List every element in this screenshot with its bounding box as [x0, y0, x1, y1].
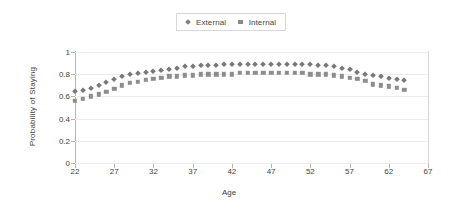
- legend-label-external: External: [196, 18, 226, 27]
- data-point-external: [261, 62, 266, 67]
- data-point-external: [96, 83, 101, 88]
- data-point-external: [308, 62, 313, 67]
- data-point-internal: [175, 74, 179, 78]
- data-point-internal: [332, 73, 336, 77]
- data-point-external: [104, 79, 109, 84]
- data-point-external: [363, 72, 368, 77]
- square-marker-icon: [238, 20, 243, 25]
- data-point-external: [292, 62, 297, 67]
- gridline: [75, 52, 428, 53]
- data-point-external: [402, 77, 407, 82]
- data-point-internal: [120, 83, 124, 87]
- data-point-external: [72, 88, 77, 93]
- x-tick-mark: [193, 164, 194, 168]
- x-tick-mark: [153, 164, 154, 168]
- data-point-external: [245, 62, 250, 67]
- data-point-internal: [245, 71, 249, 75]
- data-point-internal: [88, 94, 92, 98]
- data-point-external: [371, 73, 376, 78]
- data-point-external: [120, 74, 125, 79]
- y-tick-label: 0.4: [50, 114, 70, 123]
- data-point-internal: [167, 74, 171, 78]
- data-point-internal: [379, 83, 383, 87]
- data-point-external: [174, 65, 179, 70]
- x-tick-label: 47: [267, 167, 276, 176]
- x-tick-mark: [75, 164, 76, 168]
- data-point-internal: [253, 71, 257, 75]
- x-tick-mark: [350, 164, 351, 168]
- data-point-external: [300, 62, 305, 67]
- legend-entry-internal: Internal: [238, 18, 276, 27]
- data-point-external: [237, 62, 242, 67]
- x-tick-mark: [232, 164, 233, 168]
- x-tick-mark: [271, 164, 272, 168]
- x-tick-label: 42: [227, 167, 236, 176]
- data-point-external: [214, 63, 219, 68]
- y-tick-label: 1: [50, 48, 70, 57]
- data-point-external: [127, 72, 132, 77]
- data-point-external: [386, 75, 391, 80]
- x-tick-label: 32: [149, 167, 158, 176]
- data-point-internal: [143, 78, 147, 82]
- data-point-external: [182, 64, 187, 69]
- data-point-internal: [206, 72, 210, 76]
- data-point-internal: [340, 74, 344, 78]
- gridline: [75, 141, 428, 142]
- y-tick-mark: [71, 96, 75, 97]
- x-tick-label: 57: [345, 167, 354, 176]
- x-tick-mark: [310, 164, 311, 168]
- plot-right-border: [428, 51, 429, 164]
- data-point-external: [88, 85, 93, 90]
- data-point-external: [112, 76, 117, 81]
- data-point-internal: [292, 71, 296, 75]
- y-axis-title-text: Probability of Staying: [29, 66, 38, 146]
- data-point-external: [253, 62, 258, 67]
- y-tick-label: 0.2: [50, 136, 70, 145]
- data-point-internal: [269, 71, 273, 75]
- y-tick-mark: [71, 119, 75, 120]
- data-point-internal: [347, 75, 351, 79]
- x-tick-mark: [428, 164, 429, 168]
- data-point-external: [276, 62, 281, 67]
- data-point-internal: [316, 72, 320, 76]
- diamond-marker-icon: [185, 19, 191, 25]
- y-axis-title: Probability of Staying: [26, 50, 40, 162]
- plot-area: [75, 52, 428, 163]
- x-tick-label: 62: [384, 167, 393, 176]
- data-point-internal: [238, 71, 242, 75]
- data-point-external: [339, 65, 344, 70]
- data-point-external: [378, 74, 383, 79]
- data-point-internal: [308, 72, 312, 76]
- data-point-external: [221, 62, 226, 67]
- data-point-external: [159, 67, 164, 72]
- legend-label-internal: Internal: [249, 18, 276, 27]
- data-point-external: [80, 87, 85, 92]
- data-point-internal: [277, 71, 281, 75]
- data-point-internal: [81, 96, 85, 100]
- data-point-internal: [183, 73, 187, 77]
- x-tick-mark: [114, 164, 115, 168]
- data-point-internal: [300, 71, 304, 75]
- data-point-external: [284, 62, 289, 67]
- data-point-external: [198, 63, 203, 68]
- data-point-internal: [230, 72, 234, 76]
- data-point-internal: [112, 86, 116, 90]
- data-point-external: [229, 62, 234, 67]
- y-tick-label: 0.8: [50, 70, 70, 79]
- chart-legend: External Internal: [176, 13, 286, 31]
- data-point-external: [190, 64, 195, 69]
- y-tick-mark: [71, 52, 75, 53]
- data-point-external: [167, 66, 172, 71]
- data-point-internal: [394, 85, 398, 89]
- data-point-internal: [128, 81, 132, 85]
- data-point-external: [331, 64, 336, 69]
- data-point-internal: [190, 73, 194, 77]
- x-tick-mark: [389, 164, 390, 168]
- data-point-internal: [159, 75, 163, 79]
- data-point-internal: [355, 76, 359, 80]
- data-point-internal: [285, 71, 289, 75]
- x-tick-label: 37: [188, 167, 197, 176]
- data-point-external: [394, 76, 399, 81]
- data-point-internal: [104, 90, 108, 94]
- x-tick-label: 67: [424, 167, 433, 176]
